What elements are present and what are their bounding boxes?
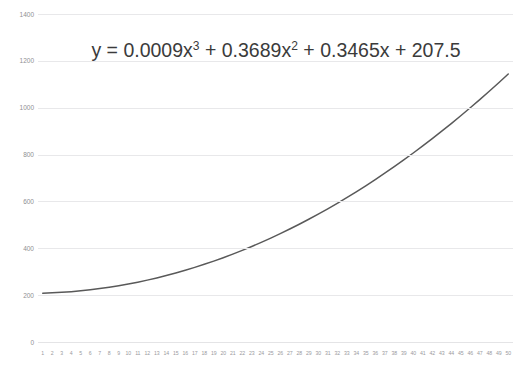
- equation-term1-coefficient: 0.0009x: [123, 39, 192, 61]
- x-tick-label: 21: [228, 349, 238, 361]
- x-tick-label: 46: [466, 349, 476, 361]
- x-tick-label: 4: [67, 349, 77, 361]
- gridline: [38, 295, 513, 296]
- y-tick-label: 600: [2, 198, 34, 205]
- x-tick-label: 13: [152, 349, 162, 361]
- x-tick-label: 11: [133, 349, 143, 361]
- x-tick-label: 45: [456, 349, 466, 361]
- x-tick-label: 15: [171, 349, 181, 361]
- x-tick-label: 7: [95, 349, 105, 361]
- x-tick-label: 29: [304, 349, 314, 361]
- x-tick-label: 26: [276, 349, 286, 361]
- x-tick-label: 50: [504, 349, 514, 361]
- x-tick-label: 41: [418, 349, 428, 361]
- chart-title: [0, 0, 531, 6]
- x-tick-label: 43: [437, 349, 447, 361]
- equation-term2-exponent: 2: [291, 39, 298, 53]
- equation-equals: =: [107, 39, 118, 61]
- x-tick-label: 19: [209, 349, 219, 361]
- x-tick-label: 31: [323, 349, 333, 361]
- x-tick-label: 9: [114, 349, 124, 361]
- x-axis: 1234567891011121314151617181920212223242…: [38, 349, 513, 361]
- plot-area: [38, 14, 513, 342]
- gridline: [38, 108, 513, 109]
- x-tick-label: 2: [48, 349, 58, 361]
- x-tick-label: 39: [399, 349, 409, 361]
- x-tick-label: 32: [333, 349, 343, 361]
- trendline-curve: [38, 14, 513, 342]
- x-tick-label: 40: [409, 349, 419, 361]
- equation-plus-2: +: [303, 39, 314, 61]
- x-tick-label: 42: [428, 349, 438, 361]
- x-tick-label: 3: [57, 349, 67, 361]
- y-tick-label: 400: [2, 245, 34, 252]
- chart-container: 0200400600800100012001400 y = 0.0009x3 +…: [0, 0, 531, 371]
- gridline: [38, 342, 513, 343]
- y-tick-label: 200: [2, 292, 34, 299]
- x-tick-label: 44: [447, 349, 457, 361]
- x-tick-label: 18: [200, 349, 210, 361]
- x-tick-label: 16: [181, 349, 191, 361]
- x-tick-label: 5: [76, 349, 86, 361]
- x-tick-label: 34: [352, 349, 362, 361]
- y-tick-label: 0: [2, 339, 34, 346]
- x-tick-label: 28: [295, 349, 305, 361]
- y-tick-label: 1400: [2, 11, 34, 18]
- y-tick-label: 800: [2, 151, 34, 158]
- x-tick-label: 24: [257, 349, 267, 361]
- x-tick-label: 25: [266, 349, 276, 361]
- y-tick-label: 1200: [2, 57, 34, 64]
- x-tick-label: 22: [238, 349, 248, 361]
- x-tick-label: 35: [361, 349, 371, 361]
- equation-plus-3: +: [395, 39, 406, 61]
- x-tick-label: 17: [190, 349, 200, 361]
- x-tick-label: 47: [475, 349, 485, 361]
- equation-term3: 0.3465x: [320, 39, 389, 61]
- equation-lhs: y: [91, 39, 101, 61]
- equation-term1-exponent: 3: [193, 39, 200, 53]
- gridline: [38, 201, 513, 202]
- x-tick-label: 8: [105, 349, 115, 361]
- x-tick-label: 27: [285, 349, 295, 361]
- y-tick-label: 1000: [2, 104, 34, 111]
- equation-term2-coefficient: 0.3689x: [222, 39, 291, 61]
- x-tick-label: 36: [371, 349, 381, 361]
- equation-annotation: y = 0.0009x3 + 0.3689x2 + 0.3465x + 207.…: [86, 37, 466, 63]
- x-tick-label: 30: [314, 349, 324, 361]
- x-tick-label: 1: [38, 349, 48, 361]
- x-tick-label: 48: [485, 349, 495, 361]
- x-tick-label: 14: [162, 349, 172, 361]
- x-tick-label: 37: [380, 349, 390, 361]
- x-tick-label: 38: [390, 349, 400, 361]
- equation-constant: 207.5: [412, 39, 461, 61]
- equation-plus-1: +: [205, 39, 216, 61]
- x-tick-label: 12: [143, 349, 153, 361]
- x-tick-label: 23: [247, 349, 257, 361]
- x-tick-label: 10: [124, 349, 134, 361]
- x-tick-label: 20: [219, 349, 229, 361]
- y-axis: 0200400600800100012001400: [0, 14, 34, 342]
- gridline: [38, 14, 513, 15]
- x-tick-label: 49: [494, 349, 504, 361]
- x-tick-label: 6: [86, 349, 96, 361]
- x-tick-label: 33: [342, 349, 352, 361]
- gridline: [38, 155, 513, 156]
- gridline: [38, 248, 513, 249]
